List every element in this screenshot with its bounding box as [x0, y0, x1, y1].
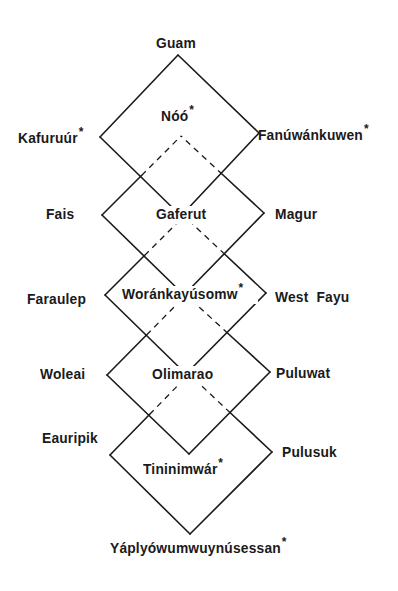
edge-lower-right [181, 133, 259, 216]
edge-upper-right-solid [223, 175, 265, 214]
label-text: Tininimwár [143, 460, 217, 477]
edge-lower-right [189, 372, 270, 454]
edge-upper-left-solid [107, 335, 147, 375]
label-text: Olimarao [152, 365, 213, 382]
asterisk-marker: * [218, 455, 223, 470]
label-right-puluwat: Puluwat [276, 364, 330, 382]
label-right-west-fayu: West Fayu [275, 288, 349, 306]
label-text: Eauripik [42, 429, 98, 446]
label-center-noo: Nóó* [161, 107, 194, 126]
label-left-kafuruur: Kafuruúr* [18, 129, 84, 148]
label-center-gaferut: Gaferut [156, 205, 206, 223]
label-text: Faraulep [27, 290, 86, 307]
label-right-fanuwankuwen: Fanúwánkuwen* [258, 126, 369, 145]
edge-upper-right-solid [231, 413, 273, 452]
edge-upper-right-dashed [181, 136, 223, 175]
asterisk-marker: * [364, 121, 369, 136]
edge-upper-left-solid [102, 176, 142, 216]
edge-lower-left [102, 215, 184, 295]
label-text: Guam [156, 34, 196, 51]
asterisk-marker: * [79, 124, 84, 139]
label-text: Fanúwánkuwen [258, 126, 363, 143]
label-text: Woránkayúsomw [122, 285, 238, 302]
asterisk-marker: * [282, 534, 287, 549]
label-left-woleai: Woleai [40, 365, 85, 383]
label-left-eauripik: Eauripik [42, 429, 98, 447]
edge-upper-left-dashed [142, 136, 182, 176]
label-text: Nóó [161, 107, 188, 124]
label-text: Kafuruúr [18, 129, 78, 146]
label-text: Woleai [40, 365, 85, 382]
edge-upper-right-solid [228, 334, 270, 373]
label-text: Gaferut [156, 205, 206, 222]
label-top-guam: Guam [156, 34, 196, 52]
label-center-tininimwar: Tininimwár* [143, 460, 223, 479]
label-center-olimarao: Olimarao [152, 365, 213, 383]
label-text: Puluwat [276, 364, 330, 381]
asterisk-marker: * [239, 280, 244, 295]
edge-lower-left [105, 295, 186, 374]
edge-upper-left-solid [110, 415, 150, 456]
label-text: West Fayu [275, 288, 349, 305]
label-right-magur: Magur [275, 205, 317, 223]
edge-lower-right [186, 293, 266, 374]
label-text: Fais [46, 205, 74, 222]
label-bottom-yaplyowumwuynusessan: Yáplyówumwuynúsessan* [110, 539, 287, 558]
label-right-pulusuk: Pulusuk [282, 443, 337, 461]
label-text: Yáplyówumwuynúsessan [110, 539, 281, 556]
label-center-worankayusomw: Woránkayúsomw* [122, 285, 243, 304]
label-text: Pulusuk [282, 443, 337, 460]
label-left-fais: Fais [46, 205, 74, 223]
label-left-faraulep: Faraulep [27, 290, 86, 308]
asterisk-marker: * [189, 102, 194, 117]
label-text: Magur [275, 205, 317, 222]
